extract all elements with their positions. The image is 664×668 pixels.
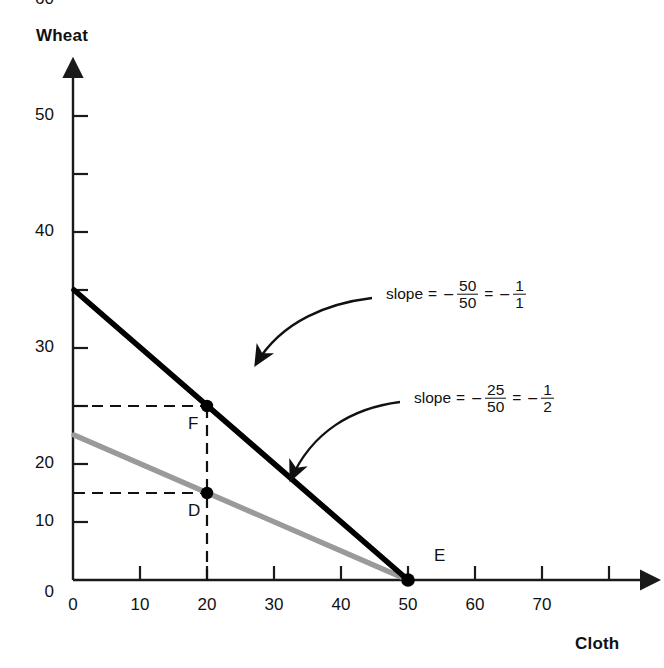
x-tick-label-10: 10 (120, 595, 160, 615)
point-E (401, 573, 415, 587)
slope-black-equals-2: = (484, 285, 493, 303)
slope-black-fraction-2: 1 1 (513, 278, 526, 311)
slope-black-denominator-2: 1 (513, 294, 526, 311)
y-tick-label-10: 10 (20, 511, 54, 531)
gray-line (74, 435, 408, 580)
x-tick-label-60: 60 (455, 595, 495, 615)
x-tick-label-40: 40 (321, 595, 361, 615)
slope-black-numerator-1: 50 (457, 278, 478, 294)
x-tick-label-20: 20 (187, 595, 227, 615)
slope-gray-fraction-2: 1 2 (541, 382, 554, 415)
x-axis-title: Cloth (575, 634, 619, 654)
slope-gray-denominator-1: 50 (485, 398, 506, 415)
slope-black-prefix: slope (386, 285, 423, 303)
y-tick-label-60: 60 (20, 0, 54, 9)
slope-annotation-gray: slope = – 25 50 = – 1 2 (414, 382, 555, 415)
slope-black-arrow (256, 298, 372, 364)
point-label-E: E (434, 546, 445, 566)
slope-annotation-black: slope = – 50 50 = – 1 1 (386, 278, 527, 311)
slope-black-equals: = (428, 285, 437, 303)
chart-svg (0, 0, 664, 668)
slope-gray-numerator-2: 1 (541, 382, 554, 398)
slope-black-fraction-1: 50 50 (457, 278, 478, 311)
x-tick-label-0: 0 (53, 595, 93, 615)
chart-canvas: Wheat Cloth 0 10 20 30 40 50 60 0 10 20 … (0, 0, 664, 668)
y-tick-label-30: 30 (20, 337, 54, 357)
slope-gray-prefix: slope (414, 389, 451, 407)
slope-gray-equals: = (456, 389, 465, 407)
point-label-D: D (188, 501, 200, 521)
x-tick-label-70: 70 (522, 595, 562, 615)
slope-black-numerator-2: 1 (513, 278, 526, 294)
slope-gray-arrow (291, 402, 400, 479)
slope-gray-equals-2: = (512, 389, 521, 407)
y-tick-label-20: 20 (20, 453, 54, 473)
slope-gray-denominator-2: 2 (541, 398, 554, 415)
point-label-F: F (188, 414, 198, 434)
x-tick-label-50: 50 (388, 595, 428, 615)
slope-gray-minus: – (472, 389, 481, 407)
black-line (74, 290, 408, 580)
slope-black-denominator-1: 50 (457, 294, 478, 311)
slope-black-minus-2: – (500, 285, 509, 303)
x-tick-label-30: 30 (254, 595, 294, 615)
y-axis-ticks (73, 116, 88, 522)
slope-gray-numerator-1: 25 (485, 382, 506, 398)
point-D (201, 487, 213, 499)
y-tick-label-50: 50 (20, 105, 54, 125)
point-F (201, 400, 213, 412)
y-tick-label-0: 0 (20, 582, 54, 602)
y-axis-title: Wheat (36, 26, 88, 46)
slope-gray-fraction-1: 25 50 (485, 382, 506, 415)
slope-gray-minus-2: – (528, 389, 537, 407)
y-tick-label-40: 40 (20, 221, 54, 241)
slope-black-minus: – (444, 285, 453, 303)
